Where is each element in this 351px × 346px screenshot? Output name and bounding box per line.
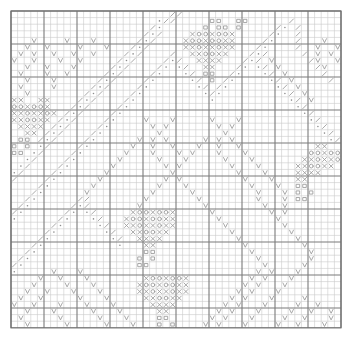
stitch-symbol-X <box>39 118 43 122</box>
stitch-symbol-S <box>78 144 82 148</box>
stitch-symbol-X <box>151 237 155 241</box>
stitch-symbol-V <box>98 177 102 181</box>
stitch-symbol-S <box>316 118 320 122</box>
stitch-symbol-V <box>303 263 307 267</box>
stitch-symbol-X <box>224 52 228 56</box>
stitch-symbol-O <box>224 32 228 36</box>
stitch-symbol-D <box>40 245 42 247</box>
stitch-symbol-V <box>72 52 76 56</box>
stitch-symbol-X <box>171 303 175 307</box>
stitch-symbol-X <box>138 290 142 294</box>
stitch-symbol-S <box>26 197 30 201</box>
stitch-symbol-X <box>210 65 214 69</box>
stitch-symbol-B <box>217 26 220 29</box>
stitch-symbol-V <box>270 270 274 274</box>
stitch-symbol-V <box>230 309 234 313</box>
stitch-symbol-O <box>158 224 162 228</box>
stitch-symbol-V <box>296 237 300 241</box>
stitch-symbol-V <box>263 204 267 208</box>
stitch-symbol-X <box>224 39 228 43</box>
stitch-symbol-V <box>52 270 56 274</box>
stitch-symbol-S <box>85 197 89 201</box>
stitch-symbol-X <box>164 303 168 307</box>
stitch-symbol-O <box>309 151 313 155</box>
stitch-symbol-O <box>19 105 23 109</box>
stitch-symbol-V <box>151 125 155 129</box>
stitch-symbol-V <box>316 303 320 307</box>
stitch-symbol-X <box>164 230 168 234</box>
stitch-symbol-X <box>316 144 320 148</box>
stitch-symbol-B <box>217 19 220 22</box>
stitch-symbol-S <box>323 125 327 129</box>
stitch-symbol-X <box>144 217 148 221</box>
stitch-symbol-V <box>257 164 261 168</box>
stitch-symbol-V <box>243 243 247 247</box>
stitch-symbol-V <box>243 283 247 287</box>
stitch-symbol-D <box>53 231 55 233</box>
stitch-symbol-X <box>32 125 36 129</box>
stitch-symbol-S <box>131 45 135 49</box>
stitch-symbol-S <box>19 257 23 261</box>
stitch-symbol-X <box>12 98 16 102</box>
stitch-symbol-V <box>125 316 129 320</box>
stitch-symbol-V <box>309 250 313 254</box>
stitch-symbol-S <box>85 204 89 208</box>
stitch-symbol-V <box>26 65 30 69</box>
stitch-symbol-S <box>105 85 109 89</box>
stitch-symbol-V <box>230 296 234 300</box>
stitch-symbol-V <box>177 164 181 168</box>
stitch-symbol-S <box>98 92 102 96</box>
stitch-symbol-V <box>39 276 43 280</box>
stitch-symbol-X <box>303 171 307 175</box>
stitch-symbol-O <box>32 118 36 122</box>
stitch-symbol-O <box>197 39 201 43</box>
stitch-symbol-S <box>52 171 56 175</box>
stitch-symbol-O <box>45 111 49 115</box>
stitch-symbol-O <box>336 151 340 155</box>
stitch-symbol-X <box>45 105 49 109</box>
stitch-symbol-D <box>66 119 68 121</box>
stitch-symbol-V <box>283 72 287 76</box>
stitch-symbol-V <box>45 72 49 76</box>
stitch-symbol-X <box>217 59 221 63</box>
stitch-symbol-X <box>230 45 234 49</box>
stitch-symbol-X <box>45 118 49 122</box>
stitch-symbol-S <box>65 125 69 129</box>
stitch-symbol-D <box>113 73 115 75</box>
stitch-symbol-X <box>144 224 148 228</box>
stitch-symbol-V <box>171 144 175 148</box>
stitch-symbol-V <box>290 78 294 82</box>
stitch-symbol-V <box>257 270 261 274</box>
stitch-symbol-X <box>309 171 313 175</box>
stitch-symbol-V <box>184 184 188 188</box>
stitch-symbol-S <box>98 217 102 221</box>
stitch-symbol-B <box>145 264 148 267</box>
stitch-symbol-X <box>323 158 327 162</box>
stitch-symbol-V <box>26 45 30 49</box>
stitch-symbol-D <box>284 27 286 29</box>
stitch-symbol-B <box>310 191 313 194</box>
stitch-symbol-S <box>39 184 43 188</box>
stitch-symbol-S <box>270 32 274 36</box>
stitch-symbol-B <box>13 145 16 148</box>
stitch-symbol-O <box>217 39 221 43</box>
stitch-symbol-D <box>60 126 62 128</box>
stitch-symbol-O <box>316 158 320 162</box>
stitch-symbol-X <box>177 290 181 294</box>
stitch-symbol-B <box>145 250 148 253</box>
stitch-symbol-S <box>296 98 300 102</box>
stitch-symbol-B <box>303 184 306 187</box>
stitch-symbol-V <box>158 184 162 188</box>
stitch-symbol-S <box>32 243 36 247</box>
stitch-symbol-V <box>224 303 228 307</box>
stitch-symbol-X <box>19 98 23 102</box>
stitch-symbol-S <box>78 98 82 102</box>
stitch-symbol-V <box>217 309 221 313</box>
stitch-symbol-X <box>26 125 30 129</box>
stitch-symbol-S <box>98 78 102 82</box>
stitch-symbol-V <box>329 52 333 56</box>
stitch-symbol-D <box>27 205 29 207</box>
stitch-symbol-S <box>151 72 155 76</box>
stitch-symbol-X <box>204 39 208 43</box>
stitch-symbol-B <box>237 26 240 29</box>
